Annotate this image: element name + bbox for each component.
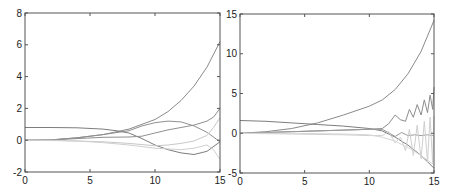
x-tick-label: 5 <box>302 176 308 187</box>
y-tick-label: -2 <box>13 167 22 178</box>
y-tick-label: 5 <box>231 88 237 99</box>
left-plot-panel: 051015-202468 <box>13 8 226 187</box>
x-tick-label: 5 <box>87 175 93 186</box>
series-line-2 <box>240 121 434 169</box>
series-line-1 <box>240 20 434 133</box>
y-tick-label: 8 <box>16 8 22 19</box>
figure: 051015-202468 051015-5051015 <box>0 0 453 193</box>
y-tick-label: 0 <box>231 128 237 139</box>
x-tick-label: 15 <box>428 176 440 187</box>
series-line-3 <box>240 87 434 133</box>
y-tick-label: -5 <box>228 168 237 179</box>
x-tick-label: 0 <box>237 176 243 187</box>
series-line-3 <box>25 121 220 142</box>
y-tick-label: 2 <box>16 103 22 114</box>
x-tick-label: 15 <box>214 175 226 186</box>
series-line-5 <box>240 116 434 164</box>
right-plot-panel: 051015-5051015 <box>226 9 440 188</box>
x-tick-label: 10 <box>149 175 161 186</box>
y-tick-label: 6 <box>16 39 22 50</box>
y-tick-label: 0 <box>16 135 22 146</box>
series-line-4 <box>25 108 220 140</box>
x-tick-label: 0 <box>22 175 28 186</box>
y-tick-label: 10 <box>226 48 238 59</box>
y-tick-label: 4 <box>16 71 22 82</box>
y-tick-label: 15 <box>226 9 238 20</box>
x-tick-label: 10 <box>364 176 376 187</box>
